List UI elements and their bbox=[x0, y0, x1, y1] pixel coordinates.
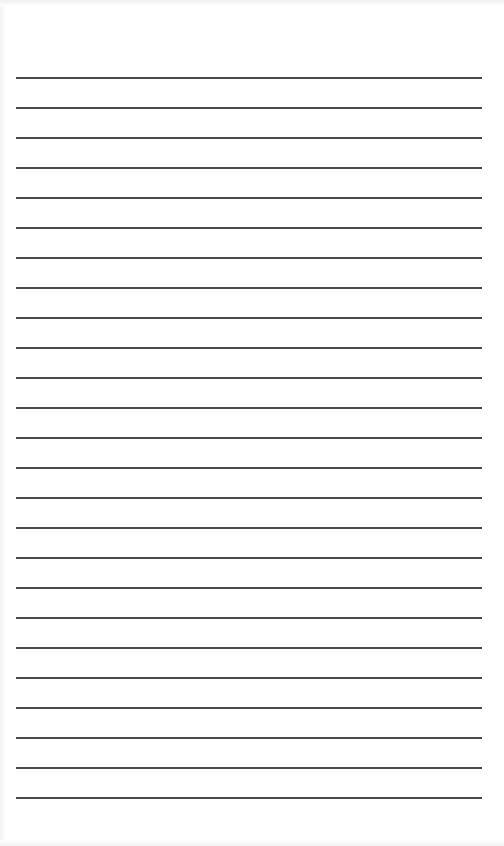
ruled-line bbox=[16, 527, 482, 529]
ruled-line bbox=[16, 167, 482, 169]
page-bottom-shade bbox=[0, 840, 504, 846]
ruled-line bbox=[16, 137, 482, 139]
ruled-line bbox=[16, 437, 482, 439]
ruled-line bbox=[16, 407, 482, 409]
ruled-line bbox=[16, 767, 482, 769]
ruled-line bbox=[16, 377, 482, 379]
ruled-line bbox=[16, 77, 482, 79]
ruled-line bbox=[16, 617, 482, 619]
lined-paper-page bbox=[0, 0, 504, 846]
ruled-line bbox=[16, 107, 482, 109]
ruled-line bbox=[16, 197, 482, 199]
ruled-line bbox=[16, 557, 482, 559]
ruled-line bbox=[16, 647, 482, 649]
ruled-line bbox=[16, 227, 482, 229]
ruled-line bbox=[16, 497, 482, 499]
page-top-shade bbox=[0, 0, 504, 6]
ruled-line bbox=[16, 707, 482, 709]
ruled-line bbox=[16, 467, 482, 469]
ruled-line bbox=[16, 677, 482, 679]
ruled-line bbox=[16, 737, 482, 739]
ruled-line bbox=[16, 317, 482, 319]
ruled-line bbox=[16, 287, 482, 289]
ruled-line bbox=[16, 587, 482, 589]
ruled-line bbox=[16, 797, 482, 799]
ruled-line bbox=[16, 347, 482, 349]
ruled-line bbox=[16, 257, 482, 259]
